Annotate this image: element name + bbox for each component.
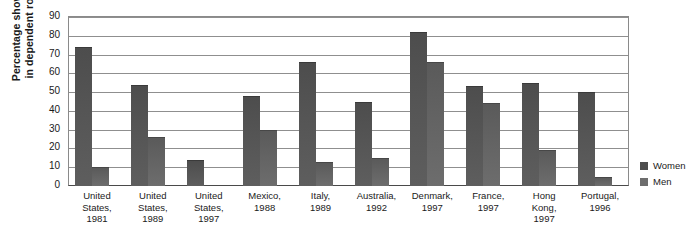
bar-women [466,86,483,186]
x-axis-tick-label-line: 1997 [512,213,576,225]
x-axis-tick-label-line: Australia, [345,190,409,202]
bar-women [75,47,92,186]
legend-label: Men [653,177,671,187]
x-axis-tick-label: UnitedStates,1997 [177,190,241,225]
y-axis-tick-label: 60 [30,67,60,77]
bar-group [187,17,237,186]
x-axis-tick-label-line: 1992 [345,202,409,214]
chart-legend: WomenMen [640,160,694,192]
bar-women [187,160,204,186]
bar-group [355,17,405,186]
y-axis-tick-label: 80 [30,30,60,40]
x-axis-tick-label: Mexico,1988 [233,190,297,213]
bar-men [92,167,109,186]
x-axis-tick-label-line: United [65,190,129,202]
x-axis-tick-label-line: 1989 [121,213,185,225]
bar-men [539,150,556,186]
x-axis-tick-label: UnitedStates,1981 [65,190,129,225]
legend-swatch-women-icon [640,162,648,170]
x-axis-tick-label-line: United [177,190,241,202]
x-axis-tick-label-line: Portugal, [568,190,632,202]
y-axis-tick-label: 70 [30,49,60,59]
x-axis-tick-label-line: States, [65,202,129,214]
x-axis-tick-label-line: United [121,190,185,202]
x-axis-tick-label-line: Kong, [512,202,576,214]
bar-men [260,130,277,186]
bar-men [316,162,333,186]
x-axis-tick-label-line: Italy, [289,190,353,202]
x-axis-tick-labels: UnitedStates,1981UnitedStates,1989United… [69,190,628,244]
x-axis-tick-label: Portugal,1996 [568,190,632,213]
bar-women [355,102,372,187]
x-axis-tick-label: UnitedStates,1989 [121,190,185,225]
x-axis-tick-label: Italy,1989 [289,190,353,213]
x-axis-tick-label-line: 1989 [289,202,353,214]
bar-group [466,17,516,186]
bar-women [522,83,539,186]
bar-group [578,17,628,186]
bar-women [578,92,595,186]
y-axis-tick-label: 20 [30,142,60,152]
bar-men [427,62,444,186]
bar-men [148,137,165,186]
bar-women [243,96,260,186]
x-axis-tick-label-line: Mexico, [233,190,297,202]
y-axis-tick-label: 0 [30,180,60,190]
x-axis-tick-label-line: Denmark, [400,190,464,202]
x-axis-tick-label-line: 1997 [400,202,464,214]
y-axis-tick-label: 10 [30,161,60,171]
y-axis-tick-label: 90 [30,11,60,21]
x-axis-tick-label-line: 1997 [456,202,520,214]
x-axis-tick-label-line: 1996 [568,202,632,214]
bar-women [410,32,427,186]
y-axis-tick-label: 30 [30,124,60,134]
x-axis-tick-label-line: 1988 [233,202,297,214]
bar-women [131,85,148,186]
x-axis-tick-label-line: 1981 [65,213,129,225]
bars-layer [69,17,628,186]
y-axis-tick-label: 50 [30,86,60,96]
legend-label: Women [653,161,686,171]
bar-group [243,17,293,186]
x-axis-tick-label: Australia,1992 [345,190,409,213]
bar-group [522,17,572,186]
bar-group [75,17,125,186]
x-axis-tick-label-line: France, [456,190,520,202]
bar-men [372,158,389,186]
x-axis-tick-label-line: Hong [512,190,576,202]
bar-group [410,17,460,186]
legend-item[interactable]: Men [640,176,694,187]
x-axis-tick-label: HongKong,1997 [512,190,576,225]
bar-group [131,17,181,186]
x-axis-tick-label: France,1997 [456,190,520,213]
x-axis-tick-label-line: 1997 [177,213,241,225]
legend-item[interactable]: Women [640,160,694,171]
x-axis-tick-label-line: States, [177,202,241,214]
bar-group [299,17,349,186]
bar-men [483,103,500,186]
bar-chart: Percentage shown in dependent role 01020… [0,0,694,244]
x-axis-tick-label: Denmark,1997 [400,190,464,213]
legend-swatch-men-icon [640,178,648,186]
x-axis-tick-label-line: States, [121,202,185,214]
y-axis-tick-label: 40 [30,105,60,115]
bar-women [299,62,316,186]
bar-men [595,177,612,186]
